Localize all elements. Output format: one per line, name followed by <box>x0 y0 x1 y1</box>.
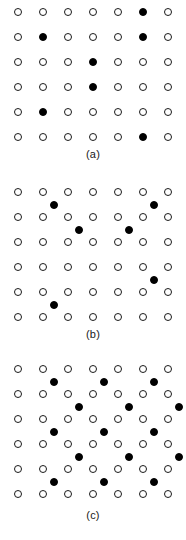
open-site-circle-icon <box>114 213 122 221</box>
open-site-circle-icon <box>64 465 72 473</box>
open-site-circle-icon <box>89 313 97 321</box>
open-site-circle-icon <box>64 213 72 221</box>
open-site-circle-icon <box>64 313 72 321</box>
open-site-circle-icon <box>114 83 122 91</box>
panel-a-lattice <box>0 0 186 145</box>
filled-site-dot-icon <box>50 301 58 309</box>
open-site-circle-icon <box>164 465 172 473</box>
open-site-circle-icon <box>139 288 147 296</box>
open-site-circle-icon <box>139 238 147 246</box>
open-site-circle-icon <box>89 490 97 498</box>
open-site-circle-icon <box>139 390 147 398</box>
open-site-circle-icon <box>89 263 97 271</box>
open-site-circle-icon <box>14 415 22 423</box>
open-site-circle-icon <box>164 415 172 423</box>
open-site-circle-icon <box>139 58 147 66</box>
filled-site-dot-icon <box>139 8 147 16</box>
filled-site-dot-icon <box>100 428 108 436</box>
filled-site-dot-icon <box>125 403 133 411</box>
open-site-circle-icon <box>64 33 72 41</box>
open-site-circle-icon <box>164 33 172 41</box>
filled-site-dot-icon <box>139 33 147 41</box>
open-site-circle-icon <box>139 213 147 221</box>
open-site-circle-icon <box>39 313 47 321</box>
open-site-circle-icon <box>39 465 47 473</box>
open-site-circle-icon <box>114 188 122 196</box>
open-site-circle-icon <box>39 263 47 271</box>
filled-site-dot-icon <box>125 453 133 461</box>
open-site-circle-icon <box>64 415 72 423</box>
filled-site-dot-icon <box>150 478 158 486</box>
open-site-circle-icon <box>64 238 72 246</box>
filled-site-dot-icon <box>150 428 158 436</box>
open-site-circle-icon <box>89 108 97 116</box>
open-site-circle-icon <box>114 390 122 398</box>
open-site-circle-icon <box>64 108 72 116</box>
open-site-circle-icon <box>64 58 72 66</box>
open-site-circle-icon <box>89 213 97 221</box>
open-site-circle-icon <box>114 238 122 246</box>
filled-site-dot-icon <box>75 453 83 461</box>
open-site-circle-icon <box>64 133 72 141</box>
open-site-circle-icon <box>39 133 47 141</box>
open-site-circle-icon <box>114 58 122 66</box>
open-site-circle-icon <box>39 8 47 16</box>
open-site-circle-icon <box>164 238 172 246</box>
panel-b-lattice <box>0 180 186 325</box>
open-site-circle-icon <box>64 188 72 196</box>
open-site-circle-icon <box>14 490 22 498</box>
open-site-circle-icon <box>14 188 22 196</box>
open-site-circle-icon <box>89 390 97 398</box>
open-site-circle-icon <box>39 390 47 398</box>
open-site-circle-icon <box>164 8 172 16</box>
open-site-circle-icon <box>14 440 22 448</box>
open-site-circle-icon <box>139 108 147 116</box>
open-site-circle-icon <box>139 465 147 473</box>
open-site-circle-icon <box>39 188 47 196</box>
filled-site-dot-icon <box>39 33 47 41</box>
open-site-circle-icon <box>89 8 97 16</box>
open-site-circle-icon <box>164 83 172 91</box>
open-site-circle-icon <box>14 213 22 221</box>
open-site-circle-icon <box>39 213 47 221</box>
open-site-circle-icon <box>114 440 122 448</box>
open-site-circle-icon <box>164 263 172 271</box>
open-site-circle-icon <box>89 288 97 296</box>
open-site-circle-icon <box>14 365 22 373</box>
open-site-circle-icon <box>14 390 22 398</box>
open-site-circle-icon <box>164 313 172 321</box>
open-site-circle-icon <box>39 288 47 296</box>
open-site-circle-icon <box>89 33 97 41</box>
filled-site-dot-icon <box>175 453 183 461</box>
open-site-circle-icon <box>89 133 97 141</box>
open-site-circle-icon <box>164 288 172 296</box>
open-site-circle-icon <box>164 390 172 398</box>
open-site-circle-icon <box>14 263 22 271</box>
open-site-circle-icon <box>139 263 147 271</box>
open-site-circle-icon <box>14 8 22 16</box>
open-site-circle-icon <box>39 415 47 423</box>
open-site-circle-icon <box>39 83 47 91</box>
open-site-circle-icon <box>114 108 122 116</box>
open-site-circle-icon <box>114 365 122 373</box>
open-site-circle-icon <box>14 465 22 473</box>
open-site-circle-icon <box>14 108 22 116</box>
open-site-circle-icon <box>139 313 147 321</box>
open-site-circle-icon <box>89 415 97 423</box>
filled-site-dot-icon <box>175 403 183 411</box>
filled-site-dot-icon <box>89 83 97 91</box>
open-site-circle-icon <box>139 490 147 498</box>
open-site-circle-icon <box>64 390 72 398</box>
panel-c-caption: (c) <box>0 509 186 522</box>
filled-site-dot-icon <box>50 478 58 486</box>
open-site-circle-icon <box>39 365 47 373</box>
filled-site-dot-icon <box>139 133 147 141</box>
panel-a-caption: (a) <box>0 148 186 161</box>
filled-site-dot-icon <box>89 58 97 66</box>
open-site-circle-icon <box>114 8 122 16</box>
open-site-circle-icon <box>139 188 147 196</box>
open-site-circle-icon <box>64 490 72 498</box>
open-site-circle-icon <box>114 415 122 423</box>
open-site-circle-icon <box>89 465 97 473</box>
filled-site-dot-icon <box>150 378 158 386</box>
